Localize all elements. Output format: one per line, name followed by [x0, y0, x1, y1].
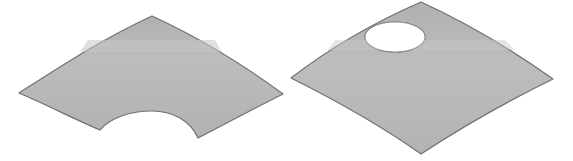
curved-square-surface: [291, 2, 553, 154]
surfaces-diagram: [0, 0, 573, 161]
right-panel: [291, 2, 553, 154]
annular-sector-surface: [19, 16, 283, 138]
left-panel: [19, 16, 283, 138]
figure: [0, 0, 573, 161]
highlight-band: [80, 40, 222, 52]
